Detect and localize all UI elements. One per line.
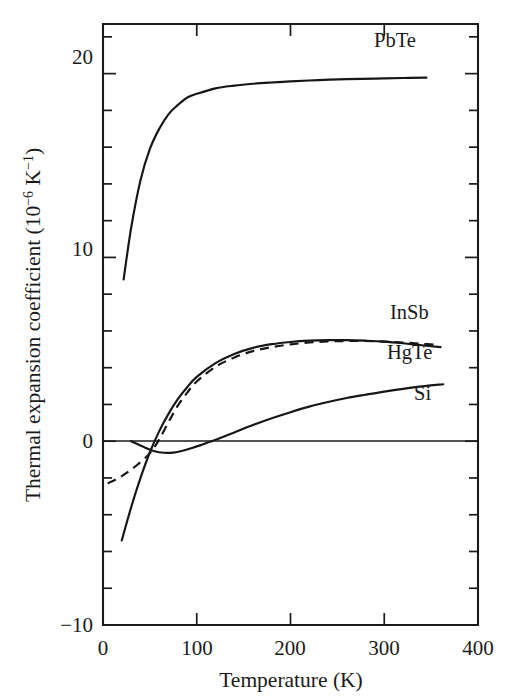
y-tick-label-minus-10: −10	[60, 613, 93, 637]
curve-label-hgte: HgTe	[387, 341, 432, 364]
y-axis-title-exponent-2: −1	[21, 155, 36, 170]
x-tick-label-200: 200	[274, 636, 306, 660]
y-tick-label-0: 0	[83, 429, 94, 453]
y-tick-label-20: 20	[72, 45, 93, 69]
y-axis-title: Thermal expansion coefficient (10−6 K−1)	[21, 148, 45, 502]
curve-label-insb: InSb	[390, 301, 429, 323]
y-tick-label-10: 10	[72, 237, 93, 261]
curve-si	[131, 384, 443, 453]
x-tick-label-300: 300	[368, 636, 400, 660]
x-axis-title: Temperature (K)	[219, 668, 363, 692]
thermal-expansion-chart: 20 10 0 −10 0 100 200 300 400 Temperatur…	[0, 0, 517, 696]
curve-label-pbte: PbTe	[374, 29, 416, 51]
x-tick-label-0: 0	[98, 636, 109, 660]
y-axis-title-exponent-1: −6	[21, 191, 36, 206]
plot-frame	[103, 24, 478, 625]
y-axis-title-tail: )	[21, 148, 45, 155]
x-tick-label-100: 100	[181, 636, 213, 660]
tick-marks	[103, 24, 478, 625]
y-axis-title-mid: K	[21, 170, 45, 191]
curve-label-si: Si	[414, 382, 431, 404]
curve-pbte	[124, 78, 427, 280]
x-tick-label-400: 400	[462, 636, 494, 660]
figure-container: 20 10 0 −10 0 100 200 300 400 Temperatur…	[0, 0, 517, 696]
y-axis-title-main: Thermal expansion coefficient (10	[21, 206, 45, 502]
